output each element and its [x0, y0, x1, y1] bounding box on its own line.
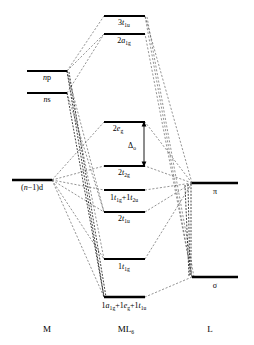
level-label-pi: π	[213, 187, 217, 196]
level-label-np: np	[43, 73, 51, 82]
column-label-ligand: L	[207, 324, 213, 334]
mo-diagram-canvas: np ns (n−1)d 3t1u 2a1g 2eg 2t2g 1t1g+1t2…	[0, 0, 254, 345]
level-label-sigma: σ	[213, 281, 218, 290]
level-label-1a1g-1eg-1t1u: 1a1g+1eg+1t1u	[102, 301, 147, 311]
mo-diagram-figure: np ns (n−1)d 3t1u 2a1g 2eg 2t2g 1t1g+1t2…	[0, 0, 254, 345]
level-label-n-1-d: (n−1)d	[21, 183, 43, 192]
column-label-metal: M	[43, 324, 51, 334]
level-label-ns: ns	[43, 95, 50, 104]
